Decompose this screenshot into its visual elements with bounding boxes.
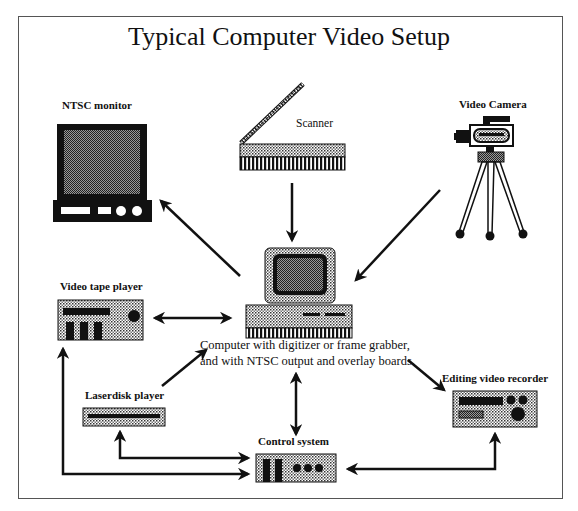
- video-tape-player-icon: [58, 300, 143, 340]
- arrow-camera-to-computer: [356, 190, 440, 280]
- editing-video-recorder-icon: [453, 391, 537, 427]
- arrow-computer-to-monitor: [161, 201, 240, 276]
- video-camera-label: Video Camera: [459, 98, 527, 110]
- ntsc-monitor-label: NTSC monitor: [62, 99, 132, 111]
- control-system-label: Control system: [258, 435, 329, 447]
- ntsc-monitor-icon: [53, 124, 152, 222]
- computer-caption-line1: Computer with digitizer or frame grabber…: [200, 337, 415, 353]
- video-tape-player-label: Video tape player: [60, 280, 143, 292]
- arrow-control-editor: [348, 434, 495, 469]
- computer-icon: [246, 248, 352, 338]
- laserdisk-player-label: Laserdisk player: [85, 389, 164, 401]
- computer-caption-line2: and with NTSC output and overlay boards.: [200, 353, 415, 369]
- editing-video-recorder-label: Editing video recorder: [442, 372, 548, 384]
- laserdisk-player-icon: [83, 408, 165, 426]
- control-system-icon: [256, 454, 336, 482]
- computer-caption: Computer with digitizer or frame grabber…: [200, 337, 415, 369]
- scanner-label: Scanner: [296, 117, 333, 129]
- arrow-control-laserdisk: [120, 432, 248, 458]
- video-camera-icon: [454, 116, 528, 241]
